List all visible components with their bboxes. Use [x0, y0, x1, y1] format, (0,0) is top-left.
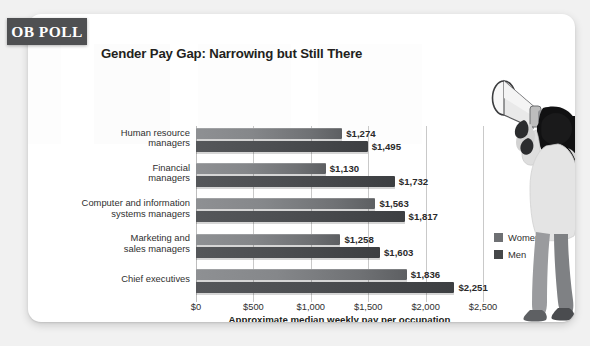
head-shape [540, 113, 572, 145]
x-axis-tick-label: $2,500 [469, 302, 497, 312]
category-label: Chief executives [40, 274, 190, 285]
gridline [483, 126, 484, 302]
bar-value-label-men: $2,251 [458, 282, 487, 293]
shoe-shape [523, 310, 546, 322]
arm-shape [522, 130, 540, 165]
bar-men [196, 282, 454, 293]
square-swatch-icon [494, 233, 503, 242]
category-label: Computer and informationsystems managers [40, 198, 190, 219]
category-label: Human resourcemanagers [40, 128, 190, 149]
torso-shape [530, 144, 575, 241]
woman-with-megaphone-illustration [480, 72, 575, 322]
bar-value-label-women: $1,258 [344, 234, 373, 245]
bar-shadow [196, 222, 405, 224]
x-axis-title: Approximate median weekly pay per occupa… [196, 314, 483, 322]
leg-shape [554, 234, 573, 316]
bar-group: $1,130$1,732 [196, 162, 483, 192]
legend-item-label: Men [508, 249, 526, 260]
bar-women [196, 269, 407, 280]
category-axis-labels: Human resourcemanagersFinancialmanagersC… [38, 126, 190, 302]
chart-plot-area: $1,274$1,495$1,130$1,732$1,563$1,817$1,2… [196, 126, 483, 302]
infographic-card: Gender Pay Gap: Narrowing but Still Ther… [28, 14, 575, 322]
category-label-line: managers [40, 173, 190, 184]
square-swatch-icon [494, 250, 503, 259]
hand-shape [515, 120, 529, 138]
x-axis-tick-label: $1,000 [297, 302, 325, 312]
ob-poll-badge-label: OB POLL [11, 23, 82, 41]
bar-men [196, 176, 395, 187]
category-label-line: sales managers [40, 244, 190, 255]
bar-men [196, 247, 380, 258]
bar-value-label-men: $1,732 [399, 176, 428, 187]
page-background: Gender Pay Gap: Narrowing but Still Ther… [0, 0, 590, 346]
x-axis-tick-label: $0 [191, 302, 201, 312]
page-title: Gender Pay Gap: Narrowing but Still Ther… [101, 46, 362, 61]
bar-women [196, 234, 340, 245]
x-axis-tick-label: $500 [243, 302, 264, 312]
chart-legend: Women Men [494, 230, 540, 264]
bar-group: $1,563$1,817 [196, 197, 483, 227]
legend-item-men: Men [494, 247, 540, 261]
shoe-shape [551, 308, 574, 321]
bar-men [196, 141, 368, 152]
bar-value-label-men: $1,817 [409, 211, 438, 222]
bar-men [196, 211, 405, 222]
hair-shape [538, 106, 575, 171]
legend-item-label: Women [508, 232, 540, 243]
bar-shadow [196, 258, 380, 260]
bar-group: $1,258$1,603 [196, 233, 483, 263]
bar-value-label-women: $1,836 [411, 269, 440, 280]
category-label-line: managers [40, 138, 190, 149]
bar-shadow [196, 293, 454, 295]
hand-shape [520, 138, 533, 155]
x-axis-tick-label: $1,500 [354, 302, 382, 312]
bar-value-label-women: $1,130 [330, 163, 359, 174]
bar-shadow [196, 152, 368, 154]
x-axis-tick-label: $2,000 [411, 302, 439, 312]
category-label: Marketing andsales managers [40, 233, 190, 254]
bar-value-label-women: $1,563 [379, 198, 408, 209]
bar-women [196, 198, 375, 209]
bar-shadow [196, 187, 395, 189]
bar-women [196, 163, 326, 174]
bar-women [196, 128, 342, 139]
bar-group: $1,836$2,251 [196, 268, 483, 298]
category-label-line: systems managers [40, 209, 190, 220]
legend-item-women: Women [494, 230, 540, 244]
bar-group: $1,274$1,495 [196, 127, 483, 157]
bar-value-label-men: $1,495 [372, 141, 401, 152]
megaphone-icon [493, 81, 546, 128]
arm-shape [516, 124, 535, 152]
ob-poll-badge: OB POLL [7, 18, 87, 45]
bar-value-label-men: $1,603 [384, 247, 413, 258]
bar-value-label-women: $1,274 [346, 128, 375, 139]
category-label: Financialmanagers [40, 163, 190, 184]
category-label-line: Chief executives [40, 274, 190, 285]
